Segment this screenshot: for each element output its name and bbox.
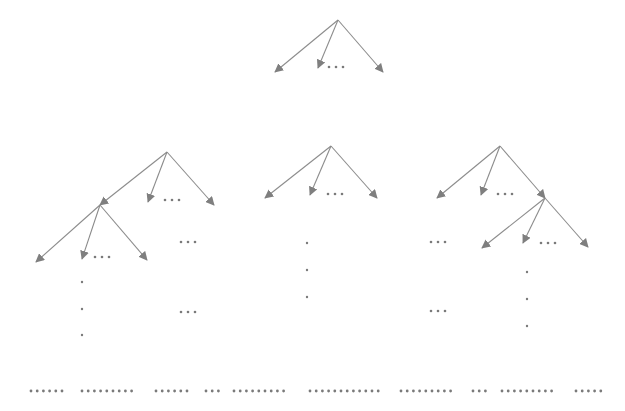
right-tree-edge	[437, 146, 500, 198]
top-tree-edge	[275, 20, 338, 72]
right-tree-subtree-edge	[545, 198, 588, 247]
right-tree-ellipsis-dot	[504, 193, 507, 196]
middle-tree-edge	[331, 146, 377, 198]
tree-edges	[36, 20, 588, 262]
bottom-row-dot	[449, 390, 452, 393]
middle-tree-vertical-ellipsis-dot	[306, 242, 308, 244]
left-tree-subtree-ellipsis-dot	[101, 256, 104, 259]
right-tree-vertical-ellipsis-dot	[526, 271, 528, 273]
left-tree-ellipsis-dot	[171, 199, 174, 202]
bottom-row-dot	[327, 390, 330, 393]
left-tree-subtree-ellipsis-dot	[94, 256, 97, 259]
top-tree-edge	[318, 20, 338, 68]
bottom-row-dot	[333, 390, 336, 393]
bottom-row-dot	[544, 390, 547, 393]
bottom-row-dot	[532, 390, 535, 393]
bottom-row-dot	[99, 390, 102, 393]
bottom-row-dot	[478, 390, 481, 393]
right-tree-extra-ellipsis-dot	[444, 241, 447, 244]
bottom-row-dot	[538, 390, 541, 393]
left-tree-extra-ellipsis-dot	[187, 241, 190, 244]
bottom-row-dot	[251, 390, 254, 393]
left-tree-ellipsis-dot	[178, 199, 181, 202]
bottom-row-dot	[124, 390, 127, 393]
middle-tree-vertical-ellipsis-dot	[306, 296, 308, 298]
bottom-row-dot	[525, 390, 528, 393]
left-tree-edge	[167, 152, 214, 205]
bottom-row-dot	[118, 390, 121, 393]
bottom-row-dot	[36, 390, 39, 393]
bottom-row-dot	[346, 390, 349, 393]
middle-tree-ellipsis-dot	[334, 193, 337, 196]
bottom-row-dot	[424, 390, 427, 393]
bottom-row-dot	[507, 390, 510, 393]
bottom-row-dot	[264, 390, 267, 393]
bottom-row-dot	[377, 390, 380, 393]
right-tree-subtree-edge	[523, 198, 545, 243]
bottom-row-dot	[484, 390, 487, 393]
bottom-row-dot	[550, 390, 553, 393]
middle-tree-vertical-ellipsis-dot	[306, 269, 308, 271]
right-tree-extra-ellipsis-dot	[430, 310, 433, 313]
bottom-row-dot	[358, 390, 361, 393]
bottom-row-dot	[93, 390, 96, 393]
left-tree-extra-ellipsis-dot	[187, 311, 190, 314]
left-tree-extra-ellipsis-dot	[194, 311, 197, 314]
bottom-row-dot	[519, 390, 522, 393]
bottom-row-dot	[54, 390, 57, 393]
right-tree-subtree-edge	[482, 198, 545, 248]
middle-tree-edge	[265, 146, 331, 198]
top-tree-edge	[338, 20, 383, 72]
bottom-row-dot	[412, 390, 415, 393]
bottom-row-dot	[352, 390, 355, 393]
bottom-row-dot	[173, 390, 176, 393]
bottom-row-dot	[257, 390, 260, 393]
bottom-row-dot	[61, 390, 64, 393]
bottom-row-dot	[501, 390, 504, 393]
bottom-row-dot	[406, 390, 409, 393]
left-tree-vertical-ellipsis-dot	[81, 281, 83, 283]
bottom-row-dot	[112, 390, 115, 393]
bottom-row-dot	[42, 390, 45, 393]
right-tree-subtree-ellipsis-dot	[554, 242, 557, 245]
middle-tree-edge	[310, 146, 331, 195]
bottom-row-dot	[400, 390, 403, 393]
bottom-row-dot	[233, 390, 236, 393]
bottom-row-dot	[418, 390, 421, 393]
middle-tree-ellipsis-dot	[327, 193, 330, 196]
right-tree-subtree-ellipsis-dot	[540, 242, 543, 245]
left-tree-vertical-ellipsis-dot	[81, 334, 83, 336]
left-tree-subtree-edge	[100, 205, 147, 260]
bottom-row-dot	[575, 390, 578, 393]
left-tree-subtree-ellipsis-dot	[108, 256, 111, 259]
bottom-row-dot	[217, 390, 220, 393]
bottom-row-dot	[186, 390, 189, 393]
bottom-row-dot	[270, 390, 273, 393]
left-tree-ellipsis-dot	[164, 199, 167, 202]
left-tree-extra-ellipsis-dot	[194, 241, 197, 244]
top-tree-ellipsis-dot	[342, 66, 345, 69]
bottom-row-dot	[155, 390, 158, 393]
right-tree-ellipsis-dot	[511, 193, 514, 196]
bottom-row-dot	[581, 390, 584, 393]
right-tree-extra-ellipsis-dot	[444, 310, 447, 313]
ellipsis-dots	[81, 66, 557, 337]
right-tree-vertical-ellipsis-dot	[526, 325, 528, 327]
middle-tree-ellipsis-dot	[341, 193, 344, 196]
bottom-row-dot	[599, 390, 602, 393]
bottom-row-dot	[167, 390, 170, 393]
left-tree-extra-ellipsis-dot	[180, 241, 183, 244]
bottom-row-dot	[105, 390, 108, 393]
right-tree-vertical-ellipsis-dot	[526, 298, 528, 300]
right-tree-ellipsis-dot	[497, 193, 500, 196]
right-tree-subtree-ellipsis-dot	[547, 242, 550, 245]
bottom-row-dot	[513, 390, 516, 393]
bottom-row-dot	[179, 390, 182, 393]
bottom-row-dot	[81, 390, 84, 393]
bottom-row-dot	[245, 390, 248, 393]
bottom-row-dot	[309, 390, 312, 393]
top-tree-ellipsis-dot	[328, 66, 331, 69]
bottom-row-dot	[161, 390, 164, 393]
bottom-row-dot	[315, 390, 318, 393]
bottom-row-dot	[321, 390, 324, 393]
